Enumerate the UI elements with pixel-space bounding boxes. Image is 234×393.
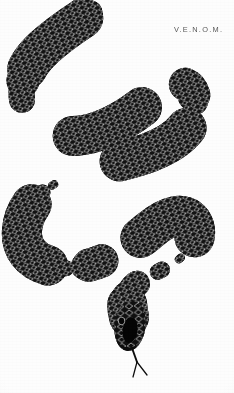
venom-snake-illustration bbox=[0, 0, 234, 393]
venom-wordmark: V.E.N.O.M. bbox=[174, 25, 223, 35]
